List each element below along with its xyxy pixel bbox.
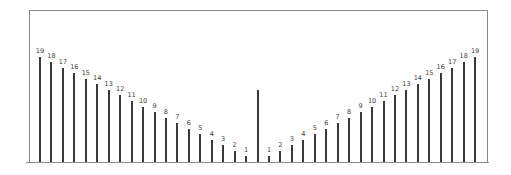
bar-R2: [279, 151, 281, 162]
bar-L15: [85, 79, 87, 162]
bar-label: 16: [437, 63, 445, 71]
bar-R10: [371, 107, 373, 163]
bar-L1: [245, 156, 247, 162]
bar-label: 1: [267, 146, 271, 154]
bar-label: 11: [127, 91, 135, 99]
bar-L16: [73, 73, 75, 162]
bar-label: 17: [448, 58, 456, 66]
bar-label: 18: [460, 52, 468, 60]
bar-L12: [119, 95, 121, 162]
bar-label: 2: [233, 141, 237, 149]
bar-label: 16: [70, 63, 78, 71]
bar-R9: [360, 112, 362, 162]
bar-L2: [234, 151, 236, 162]
bar-R15: [428, 79, 430, 162]
bar-label: 17: [59, 58, 67, 66]
bar-label: 8: [164, 108, 168, 116]
bar-label: 18: [47, 52, 55, 60]
bar-L6: [188, 129, 190, 162]
bar-label: 6: [324, 119, 328, 127]
bar-label: 2: [278, 141, 282, 149]
bar-label: 14: [414, 74, 422, 82]
bar-L9: [154, 112, 156, 162]
bar-R13: [405, 90, 407, 162]
bar-label: 15: [82, 69, 90, 77]
bar-L17: [62, 68, 64, 162]
bar-L11: [131, 101, 133, 162]
bar-label: 13: [402, 80, 410, 88]
bar-label: 4: [210, 130, 214, 138]
bar-R16: [440, 73, 442, 162]
bar-center: [257, 90, 259, 162]
bar-R3: [291, 145, 293, 162]
bar-R6: [325, 129, 327, 162]
bar-label: 10: [368, 97, 376, 105]
bar-label: 5: [313, 124, 317, 132]
bar-L10: [142, 107, 144, 163]
bar-label: 7: [175, 113, 179, 121]
bar-label: 15: [425, 69, 433, 77]
bar-label: 1: [244, 146, 248, 154]
stem-chart: 1918171615141312111098765432112345678910…: [0, 0, 511, 175]
bar-L8: [165, 118, 167, 162]
bar-L18: [50, 62, 52, 162]
bar-L13: [108, 90, 110, 162]
bar-label: 10: [139, 97, 147, 105]
bar-R11: [383, 101, 385, 162]
bar-label: 9: [359, 102, 363, 110]
bar-R4: [302, 140, 304, 162]
bar-L5: [199, 134, 201, 162]
bar-L4: [211, 140, 213, 162]
bar-label: 19: [471, 47, 479, 55]
bar-R12: [394, 95, 396, 162]
bar-label: 12: [116, 85, 124, 93]
bar-L19: [39, 57, 41, 162]
bar-label: 7: [336, 113, 340, 121]
x-axis-baseline: [26, 162, 489, 163]
bar-label: 3: [221, 135, 225, 143]
bar-label: 6: [187, 119, 191, 127]
bar-L14: [96, 84, 98, 162]
bar-label: 9: [152, 102, 156, 110]
bar-R17: [451, 68, 453, 162]
bar-label: 8: [347, 108, 351, 116]
bar-label: 13: [105, 80, 113, 88]
bar-R8: [348, 118, 350, 162]
bar-R14: [417, 84, 419, 162]
bar-R7: [337, 123, 339, 162]
bar-label: 5: [198, 124, 202, 132]
bar-label: 12: [391, 85, 399, 93]
bar-L3: [222, 145, 224, 162]
bar-R19: [474, 57, 476, 162]
bar-label: 3: [290, 135, 294, 143]
bar-label: 14: [93, 74, 101, 82]
bar-label: 4: [301, 130, 305, 138]
bar-R1: [268, 156, 270, 162]
bar-label: 11: [379, 91, 387, 99]
bar-label: 19: [36, 47, 44, 55]
bar-R5: [314, 134, 316, 162]
bar-R18: [463, 62, 465, 162]
bar-L7: [176, 123, 178, 162]
